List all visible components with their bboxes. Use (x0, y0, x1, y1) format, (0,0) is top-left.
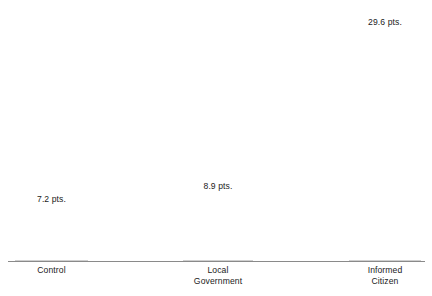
bar-group-local-government: 8.9 pts. (183, 192, 253, 262)
plot-area: 7.2 pts. 8.9 pts. 29.6 pts. (0, 0, 432, 262)
value-label-control: 7.2 pts. (37, 194, 66, 204)
bar-group-control: 7.2 pts. (15, 205, 88, 262)
category-axis-line (8, 261, 425, 262)
category-label-informed-citizen: Informed Citizen (349, 265, 421, 286)
category-label-local-government: Local Government (183, 265, 253, 286)
category-label-local-government-line1: Local (183, 265, 253, 276)
value-label-local-government: 8.9 pts. (204, 181, 233, 191)
category-label-informed-citizen-line2: Citizen (349, 276, 421, 287)
bar-chart: 7.2 pts. 8.9 pts. 29.6 pts. Control Loca… (0, 0, 432, 296)
category-label-control: Control (15, 265, 88, 276)
category-label-local-government-line2: Government (183, 276, 253, 287)
category-label-control-line1: Control (15, 265, 88, 276)
value-label-informed-citizen: 29.6 pts. (368, 17, 402, 27)
bar-group-informed-citizen: 29.6 pts. (349, 28, 421, 262)
category-label-informed-citizen-line1: Informed (349, 265, 421, 276)
